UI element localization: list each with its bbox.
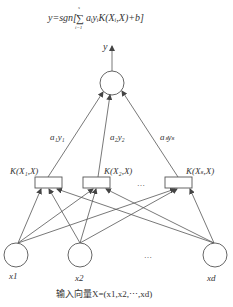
kernel-ellipsis: … [137,179,145,188]
input-label-xd: xd [206,273,216,283]
kernel-box-2 [83,177,110,188]
kernel-label-s: K(Xₛ,X) [185,166,214,176]
input-ellipsis: … [144,251,152,260]
sum-symbol: ∑ [76,12,84,25]
kernel-label-1: K(X₁,X) [9,166,38,176]
sum-lower: i=1 [75,25,82,30]
kernel-label-2: K(X₂,X) [103,166,132,176]
kernel-box-s [165,177,192,188]
input-label-x1: x1 [8,271,18,281]
formula-body: aᵢyᵢK(Xᵢ,X)+b] [86,12,144,24]
svm-diagram: y=sgn[ ∑ s i=1 aᵢyᵢK(Xᵢ,X)+b] y a₁y₁ a₂y… [0,0,233,307]
output-label: y [102,41,108,52]
formula-prefix: y=sgn[ [47,12,78,23]
input-node-x1 [4,243,28,267]
sum-upper: s [78,5,80,10]
kernel-box-1 [35,177,62,188]
output-node [100,71,124,95]
input-node-x2 [68,243,92,267]
weight-label-2: a₂y₂ [110,132,125,142]
weight-line-2 [98,95,110,177]
input-node-xd [203,243,227,267]
input-label-x2: x2 [74,273,84,283]
input-connections [18,189,214,243]
input-vector-caption: 输入向量X=(x1,x2,⋯,xd) [56,288,152,299]
weight-label-1: a₁y₁ [50,132,65,142]
decision-formula: y=sgn[ ∑ s i=1 aᵢyᵢK(Xᵢ,X)+b] [47,5,144,30]
weight-label-s: aₛyₛ [160,132,175,142]
